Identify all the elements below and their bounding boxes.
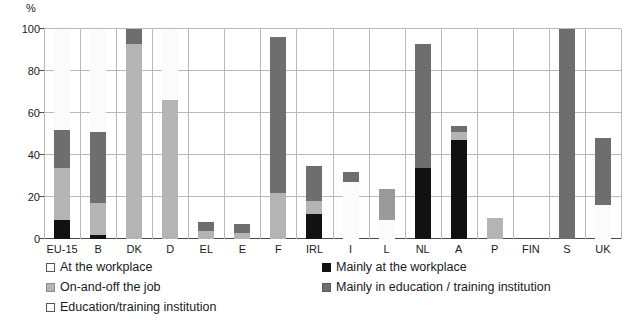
- category-label-f: F: [260, 243, 296, 255]
- stacked-bar[interactable]: [198, 29, 214, 239]
- bar-segment: [234, 233, 250, 239]
- stacked-bar[interactable]: [90, 29, 106, 239]
- bar-slot: [369, 29, 405, 239]
- chart-legend: At the workplaceMainly at the workplaceO…: [0, 258, 635, 320]
- bar-segment: [90, 132, 106, 203]
- category-label-fin: FIN: [513, 243, 549, 255]
- legend-swatch-icon: [46, 263, 55, 272]
- stacked-bar-chart: % 020406080100 EU-15BDKDELEFIRLILNLAPFIN…: [0, 0, 635, 322]
- category-label-i: I: [333, 243, 369, 255]
- bar-segment: [234, 224, 250, 232]
- bar-slot: [116, 29, 152, 239]
- category-label-b: B: [80, 243, 116, 255]
- bar-slot: [224, 29, 260, 239]
- bar-segment: [270, 193, 286, 239]
- bar-slot: [585, 29, 621, 239]
- category-label-nl: NL: [405, 243, 441, 255]
- stacked-bar[interactable]: [343, 29, 359, 239]
- bar-slot: [152, 29, 188, 239]
- legend-swatch-icon: [322, 283, 331, 292]
- legend-label: Education/training institution: [60, 300, 216, 314]
- legend-item[interactable]: Mainly at the workplace: [322, 260, 467, 274]
- category-label-e: E: [224, 243, 260, 255]
- y-tick-label: 100: [12, 24, 40, 35]
- stacked-bar[interactable]: [234, 29, 250, 239]
- stacked-bar[interactable]: [379, 29, 395, 239]
- category-label-s: S: [549, 243, 585, 255]
- y-axis-tick-labels: 020406080100: [8, 29, 40, 239]
- category-label-l: L: [369, 243, 405, 255]
- bar-segment: [54, 168, 70, 221]
- bar-segment: [487, 218, 503, 239]
- legend-swatch-icon: [46, 303, 55, 312]
- y-tick-label: 80: [12, 66, 40, 77]
- bar-segment: [379, 220, 395, 239]
- stacked-bar[interactable]: [162, 29, 178, 239]
- stacked-bar[interactable]: [487, 29, 503, 239]
- bar-segment: [90, 235, 106, 239]
- bar-segment: [126, 29, 142, 44]
- category-label-uk: UK: [585, 243, 621, 255]
- stacked-bar[interactable]: [451, 29, 467, 239]
- bar-slot: [260, 29, 296, 239]
- stacked-bar[interactable]: [306, 29, 322, 239]
- legend-label: On-and-off the job: [60, 280, 161, 294]
- bar-slot: [296, 29, 332, 239]
- y-tick-label: 60: [12, 108, 40, 119]
- legend-label: Mainly at the workplace: [336, 260, 467, 274]
- bar-segment: [162, 100, 178, 239]
- bar-segment: [54, 130, 70, 168]
- bar-segment: [162, 29, 178, 100]
- y-tick-label: 0: [12, 234, 40, 245]
- bar-segment: [343, 182, 359, 239]
- bar-slot: [333, 29, 369, 239]
- legend-label: Mainly in education / training instituti…: [336, 280, 551, 294]
- stacked-bar[interactable]: [415, 29, 431, 239]
- category-label-irl: IRL: [296, 243, 332, 255]
- plot-area: [44, 29, 621, 239]
- bar-slot: [188, 29, 224, 239]
- bar-segment: [306, 214, 322, 239]
- legend-item[interactable]: On-and-off the job: [46, 280, 161, 294]
- bar-segment: [415, 168, 431, 239]
- bar-segment: [343, 172, 359, 183]
- legend-item[interactable]: At the workplace: [46, 260, 152, 274]
- stacked-bar[interactable]: [523, 29, 539, 239]
- stacked-bar[interactable]: [126, 29, 142, 239]
- category-label-dk: DK: [116, 243, 152, 255]
- legend-item[interactable]: Education/training institution: [46, 300, 216, 314]
- bar-slot: [513, 29, 549, 239]
- stacked-bar[interactable]: [595, 29, 611, 239]
- bar-segment: [198, 231, 214, 239]
- category-label-p: P: [477, 243, 513, 255]
- category-label-el: EL: [188, 243, 224, 255]
- bar-segment: [379, 189, 395, 221]
- bar-slot: [549, 29, 585, 239]
- bar-slot: [477, 29, 513, 239]
- bar-segment: [451, 140, 467, 239]
- bar-slot: [441, 29, 477, 239]
- stacked-bar[interactable]: [559, 29, 575, 239]
- stacked-bar[interactable]: [270, 29, 286, 239]
- category-label-a: A: [441, 243, 477, 255]
- legend-label: At the workplace: [60, 260, 152, 274]
- stacked-bar[interactable]: [54, 29, 70, 239]
- bar-segment: [451, 126, 467, 132]
- bar-segment: [54, 29, 70, 130]
- bar-segment: [451, 132, 467, 140]
- bar-segment: [54, 220, 70, 239]
- bar-segment: [90, 203, 106, 235]
- legend-swatch-icon: [46, 283, 55, 292]
- bar-segment: [306, 201, 322, 214]
- bar-slot: [80, 29, 116, 239]
- bar-segment: [415, 44, 431, 168]
- legend-item[interactable]: Mainly in education / training instituti…: [322, 280, 551, 294]
- bar-segment: [595, 205, 611, 239]
- bar-segment: [90, 29, 106, 132]
- bar-slot: [44, 29, 80, 239]
- y-tick-label: 20: [12, 192, 40, 203]
- legend-swatch-icon: [322, 263, 331, 272]
- plot-frame-edge: [621, 29, 622, 239]
- bar-segment: [595, 138, 611, 205]
- bar-segment: [559, 29, 575, 239]
